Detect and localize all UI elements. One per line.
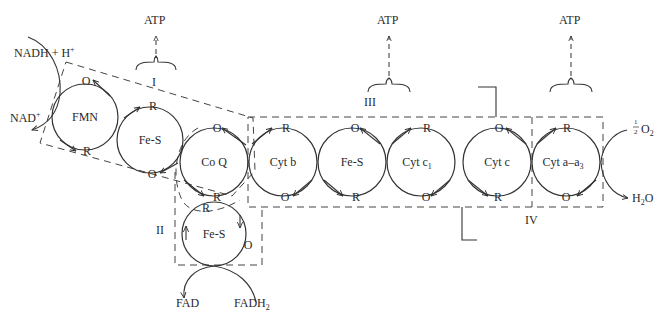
arrow-icon	[431, 180, 450, 196]
state-label: O	[495, 121, 504, 135]
carrier-fes2-label: Fe-S	[203, 227, 226, 241]
brace-icon	[368, 78, 410, 92]
nadh-label: NADH + H+	[14, 45, 75, 60]
arrow-icon	[577, 180, 596, 196]
complex-label-III: III	[364, 95, 376, 109]
state-label: R	[282, 121, 290, 135]
state-label: O	[213, 121, 222, 135]
complex-label-II: II	[156, 223, 164, 237]
state-label: R	[149, 99, 157, 113]
atp-site-I	[136, 36, 176, 70]
arrow-icon	[252, 128, 272, 144]
atp-site-IV	[550, 36, 592, 92]
state-label: O	[562, 190, 571, 204]
fadh2-label: FADH2	[234, 296, 270, 312]
atp-label-IV: ATP	[559, 13, 581, 27]
o2-input-line	[601, 130, 627, 162]
carrier-fes3-label: Fe-S	[341, 155, 364, 169]
fad-output-arrow	[184, 266, 214, 298]
electron-transport-chain-diagram: ATP ATP ATP I III IV II NADH + H+ NAD+ F…	[0, 0, 665, 317]
arrow-icon	[93, 80, 110, 96]
carrier-cytc-label: Cyt c	[484, 155, 510, 169]
arrow-icon	[537, 128, 556, 144]
fad-label: FAD	[176, 296, 199, 310]
o2-label: O2	[641, 122, 654, 138]
state-label: R	[494, 190, 502, 204]
arrow-icon	[324, 180, 343, 196]
arrow-icon	[506, 128, 526, 144]
h2o-label: H2O	[632, 191, 654, 207]
carrier-cytaa3-label: Cyt a–a3	[543, 155, 584, 171]
state-label: R	[352, 190, 360, 204]
arrow-icon	[468, 180, 488, 196]
arrow-icon	[222, 128, 246, 145]
arrow-icon	[360, 128, 380, 144]
nad-label: NAD+	[10, 110, 41, 125]
carrier-cytb-label: Cyt b	[270, 155, 296, 169]
carrier-fes1-label: Fe-S	[139, 133, 162, 147]
o2-fraction-num: 1	[634, 118, 638, 126]
complex-label-I: I	[152, 75, 156, 89]
state-label: R	[83, 144, 91, 158]
state-label: R	[423, 121, 431, 135]
arrow-icon	[124, 107, 140, 118]
state-label: O	[82, 74, 91, 88]
state-label: R	[213, 190, 221, 204]
carrier-coq-label: Co Q	[201, 155, 227, 169]
state-label: O	[281, 190, 290, 204]
arrow-icon	[392, 128, 411, 144]
atp-site-III	[368, 36, 410, 92]
complex-label-IV: IV	[525, 213, 538, 227]
arrow-icon	[184, 180, 204, 196]
state-label: O	[244, 238, 253, 252]
state-label: R	[202, 201, 210, 215]
complex-IV-bracket-bottom	[462, 207, 477, 240]
state-label: O	[422, 190, 431, 204]
brace-icon	[550, 78, 592, 92]
complex-IV-bracket-top	[478, 87, 496, 117]
arrow-icon	[160, 163, 178, 173]
state-label: R	[563, 121, 571, 135]
o2-fraction-den: 2	[634, 128, 638, 136]
coq-boundary-arc	[176, 128, 240, 211]
atp-label-I: ATP	[144, 13, 166, 27]
state-label: O	[148, 167, 157, 181]
carrier-fmn-label: FMN	[72, 110, 98, 124]
carrier-cytc1-label: Cyt c1	[402, 155, 432, 171]
atp-label-III: ATP	[377, 13, 399, 27]
arrow-icon	[293, 180, 312, 196]
state-label: O	[351, 121, 360, 135]
brace-icon	[136, 56, 176, 70]
h2o-output-arrow	[601, 162, 628, 198]
